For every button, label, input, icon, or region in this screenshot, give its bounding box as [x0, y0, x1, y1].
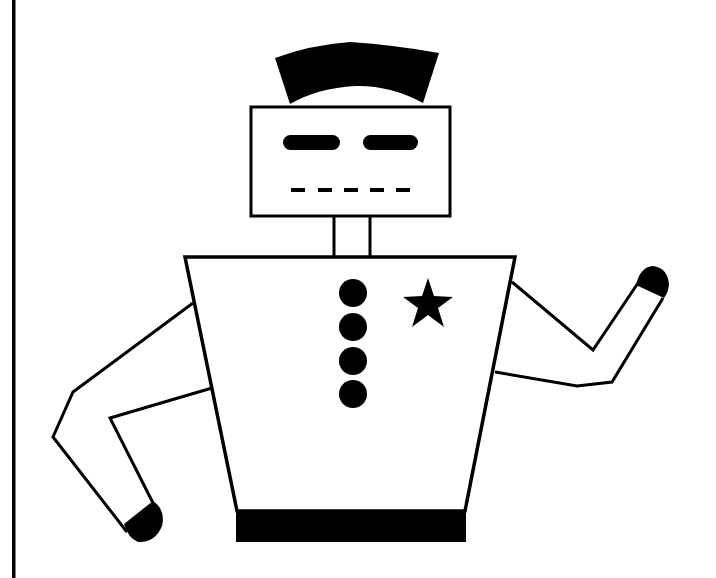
button-dot-icon — [339, 313, 367, 341]
right-arm-upper-outline — [512, 282, 638, 350]
right-hand-icon — [636, 266, 669, 298]
robot-belt — [236, 510, 466, 542]
left-eye-icon — [283, 135, 340, 150]
robot-neck — [334, 216, 370, 257]
left-arm — [53, 303, 212, 542]
frame-left-border — [12, 0, 16, 578]
robot-drawing — [0, 0, 716, 578]
left-arm-outline — [53, 303, 193, 532]
right-arm-lower-outline — [495, 298, 663, 386]
left-hand-icon — [124, 501, 163, 542]
robot-head — [251, 107, 450, 216]
button-dot-icon — [339, 347, 367, 375]
robot-hat — [275, 42, 439, 104]
left-arm-inner-outline — [110, 388, 212, 503]
right-eye-icon — [363, 135, 418, 150]
right-arm — [495, 266, 669, 386]
button-dot-icon — [339, 279, 367, 307]
button-dot-icon — [339, 380, 367, 408]
